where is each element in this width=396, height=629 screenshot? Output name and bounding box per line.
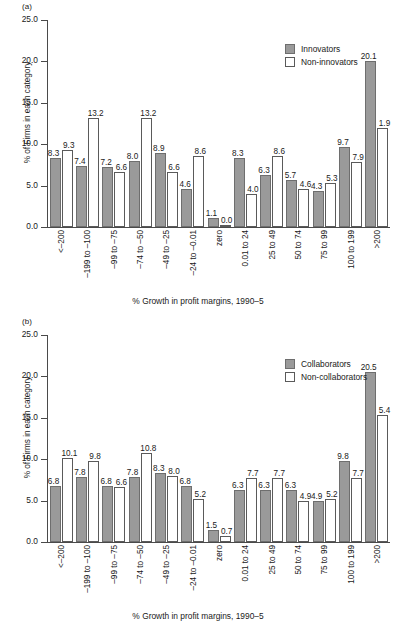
bar-value-label: 8.3 <box>232 149 243 159</box>
bar-series2: 5.2 <box>193 499 204 542</box>
x-axis-line-b <box>47 542 390 543</box>
bar-series2: 4.6 <box>298 189 309 227</box>
legend-a: Innovators Non-innovators <box>285 42 358 68</box>
y-tick-label: 25.0 <box>22 14 38 24</box>
x-tick: >200 <box>364 230 390 292</box>
plot-area-a: 0.05.010.015.020.025.0 8.39.37.413.27.26… <box>47 20 390 228</box>
bar-value-label: 4.6 <box>300 180 311 190</box>
bar-series1: 1.1 <box>208 218 219 227</box>
bar-series1: 8.3 <box>155 473 166 542</box>
bar-series2: 13.2 <box>88 118 99 227</box>
y-tick-label: 10.0 <box>22 138 38 148</box>
x-axis-title-b: % Growth in profit margins, 1990–5 <box>0 611 396 621</box>
bar-group: 4.68.6 <box>180 20 206 227</box>
bar-value-label: 6.3 <box>232 481 243 491</box>
bar-series2: 13.2 <box>141 118 152 227</box>
bar-series2: 6.6 <box>114 172 125 227</box>
bar-series1: 6.3 <box>260 175 271 227</box>
y-tick-a-3: 15.0 <box>41 103 47 104</box>
bar-group: 8.013.2 <box>127 20 153 227</box>
bar-value-label: 6.6 <box>168 163 179 173</box>
x-tick-label: –199 to –100 <box>83 545 92 593</box>
x-tick: zero <box>206 230 232 292</box>
x-tick: –24 to –0.01 <box>180 230 206 292</box>
x-tick-label: 75 to 99 <box>320 230 329 260</box>
bar-value-label: 7.8 <box>127 468 138 478</box>
bar-value-label: 6.8 <box>179 477 190 487</box>
legend-swatch-icon-collaborators <box>285 359 295 369</box>
bar-series2: 5.3 <box>325 183 336 227</box>
x-tick-label: 50 to 74 <box>293 230 302 260</box>
bar-series1: 6.8 <box>50 486 61 542</box>
x-tick-label: –49 to –25 <box>162 230 171 269</box>
panel-b-label: (b) <box>22 317 32 326</box>
bar-series2: 5.2 <box>325 499 336 542</box>
bar-group: 6.37.7 <box>232 335 258 542</box>
x-tick: zero <box>206 545 232 607</box>
bar-value-label: 8.6 <box>195 147 206 157</box>
bar-group: 7.26.6 <box>101 20 127 227</box>
y-tick-label: 15.0 <box>22 412 38 422</box>
bar-value-label: 4.9 <box>311 492 322 502</box>
x-tick-label: 25 to 49 <box>267 545 276 575</box>
bar-group: 8.34.0 <box>232 20 258 227</box>
x-tick-label: –99 to –75 <box>109 230 118 269</box>
x-tick: –99 to –75 <box>101 230 127 292</box>
legend-swatch-icon-innovators <box>285 44 295 54</box>
bar-value-label: 9.8 <box>89 452 100 462</box>
bar-series2: 5.4 <box>377 415 388 543</box>
bar-value-label: 5.2 <box>195 490 206 500</box>
y-tick-b-3: 15.0 <box>41 418 47 419</box>
chart-panel-a: (a) % of Firms in each category 0.05.010… <box>0 0 396 314</box>
bar-series2: 9.3 <box>62 150 73 227</box>
y-tick-b-0: 0.0 <box>41 542 47 543</box>
y-axis-title-a: % of Firms in each category <box>23 28 32 198</box>
bar-value-label: 9.3 <box>63 141 74 151</box>
x-tick-label: zero <box>215 545 224 561</box>
x-tick-label: –49 to –25 <box>162 545 171 584</box>
y-tick-a-1: 5.0 <box>41 186 47 187</box>
bar-series1: 20.5 <box>365 372 376 542</box>
x-tick-label: –74 to –50 <box>136 545 145 584</box>
y-axis-title-b: % of Firms in each category <box>23 343 32 513</box>
x-tick-label: 75 to 99 <box>320 545 329 575</box>
y-tick-label: 0.0 <box>26 221 38 231</box>
bar-value-label: 8.3 <box>48 149 59 159</box>
bar-value-label: 1.1 <box>206 209 217 219</box>
legend-item-non-collaborators: Non-collaborators <box>285 370 367 383</box>
bar-series1: 9.7 <box>339 147 350 227</box>
legend-swatch-icon-non-innovators <box>285 57 295 67</box>
x-tick: –74 to –50 <box>127 230 153 292</box>
bar-value-label: 4.0 <box>247 185 258 195</box>
bar-value-label: 8.3 <box>153 464 164 474</box>
bar-value-label: 7.4 <box>74 157 85 167</box>
bar-series2: 10.8 <box>141 453 152 542</box>
x-tick-label: –99 to –75 <box>109 545 118 584</box>
x-axis-line-a <box>47 227 390 228</box>
x-tick-label: >200 <box>372 545 381 563</box>
bar-group: 7.810.8 <box>127 335 153 542</box>
x-tick: –199 to –100 <box>74 545 100 607</box>
legend-label-non-innovators: Non-innovators <box>301 57 358 67</box>
bar-group: 20.55.4 <box>364 335 390 542</box>
x-tick: <–200 <box>48 545 74 607</box>
y-tick-b-5: 25.0 <box>41 335 47 336</box>
x-tick: >200 <box>364 545 390 607</box>
legend-label-collaborators: Collaborators <box>301 359 351 369</box>
bar-group: 8.39.3 <box>48 20 74 227</box>
x-tick: –49 to –25 <box>153 230 179 292</box>
bar-value-label: 8.0 <box>168 467 179 477</box>
bar-group: 6.810.1 <box>48 335 74 542</box>
x-tick-label: zero <box>215 230 224 246</box>
x-tick-label: –199 to –100 <box>83 230 92 278</box>
bar-series1: 6.3 <box>260 490 271 542</box>
bar-series2: 8.0 <box>167 476 178 542</box>
bar-series2: 6.6 <box>114 487 125 542</box>
bar-series2: 4.9 <box>298 501 309 542</box>
x-tick: –99 to –75 <box>101 545 127 607</box>
bar-series2: 0.7 <box>220 536 231 542</box>
bar-value-label: 4.6 <box>179 180 190 190</box>
x-tick-label: –24 to –0.01 <box>188 545 197 591</box>
x-axis-ticks-b: <–200–199 to –100–99 to –75–74 to –50–49… <box>48 545 390 607</box>
bar-group: 6.86.6 <box>101 335 127 542</box>
